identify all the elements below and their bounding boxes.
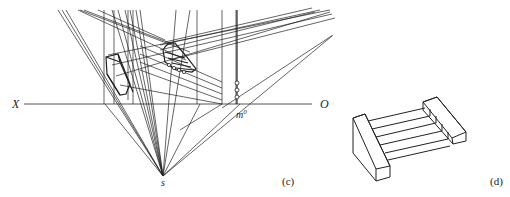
measuring-point-label: m0 bbox=[236, 109, 247, 120]
figure-c-caption: (c) bbox=[282, 176, 294, 187]
perspective-construction-figure: X O s m0 (c) (d) bbox=[0, 0, 510, 197]
station-point-label: s bbox=[161, 178, 165, 188]
x-axis-label: X bbox=[12, 98, 19, 110]
o-axis-label: O bbox=[320, 98, 329, 110]
figure-d-caption: (d) bbox=[490, 176, 503, 187]
figure-d-stair-isometric bbox=[0, 0, 510, 197]
